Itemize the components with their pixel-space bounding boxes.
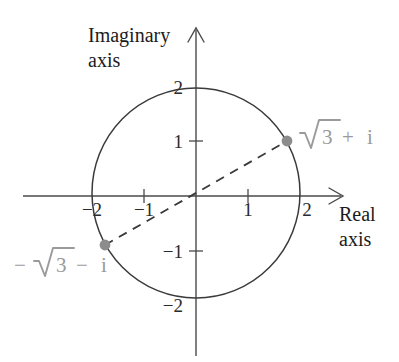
imaginary-axis-label-line2: axis [88, 49, 120, 71]
tick-label-imag-minus-2: −2 [163, 295, 183, 316]
label-upper-imaginary-unit: i [367, 125, 373, 149]
tick-label-real-plus-1: 1 [243, 199, 253, 220]
real-axis-label-line2: axis [339, 228, 371, 250]
label-neg-sqrt3-minus-i: − 3 − i [14, 248, 107, 277]
label-lower-lead-sign: − [14, 253, 26, 277]
tick-label-real-minus-1: −1 [134, 199, 154, 220]
label-upper-operator: + [342, 125, 354, 149]
tick-label-imag-plus-1: 1 [174, 131, 184, 152]
label-lower-operator: − [76, 253, 88, 277]
complex-plane-svg: Imaginary axis Real axis −2 −1 1 2 2 1 −… [0, 0, 399, 362]
point-neg-sqrt3-minus-i[interactable] [100, 240, 111, 251]
radical-icon-lower [34, 248, 74, 276]
tick-label-imag-minus-1: −1 [163, 241, 183, 262]
point-sqrt3-plus-i[interactable] [282, 136, 293, 147]
tick-label-real-minus-2: −2 [82, 199, 102, 220]
label-lower-radicand: 3 [56, 253, 67, 277]
label-sqrt3-plus-i: 3 + i [300, 120, 373, 149]
tick-label-real-plus-2: 2 [302, 199, 312, 220]
label-upper-radicand: 3 [322, 125, 333, 149]
real-axis-label-line1: Real [339, 203, 376, 225]
axes-group [23, 28, 343, 356]
tick-label-imag-plus-2: 2 [174, 77, 184, 98]
imaginary-axis-label-line1: Imaginary [88, 24, 170, 47]
label-lower-imaginary-unit: i [101, 253, 107, 277]
complex-plane-figure: Imaginary axis Real axis −2 −1 1 2 2 1 −… [0, 0, 399, 362]
radical-icon-upper [300, 120, 340, 148]
